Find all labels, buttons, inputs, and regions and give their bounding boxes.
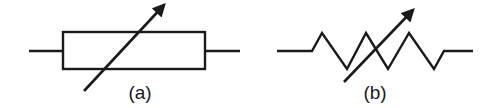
symbol-a-rectangular-variable-resistor: (a) <box>29 5 240 103</box>
label-b: (b) <box>363 82 386 103</box>
label-a: (a) <box>128 82 151 103</box>
symbol-b-zigzag-variable-resistor: (b) <box>277 10 473 103</box>
variable-arrow-icon <box>84 5 164 91</box>
variable-resistor-diagram: (a) (b) <box>0 0 495 108</box>
